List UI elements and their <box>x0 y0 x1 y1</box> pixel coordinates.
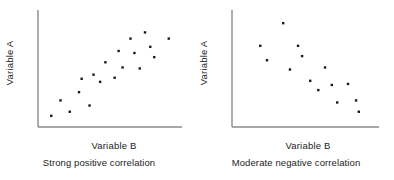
data-point <box>259 45 261 47</box>
data-point <box>113 77 115 79</box>
data-point <box>133 52 135 54</box>
data-point <box>59 99 61 101</box>
chart-panel-moderate-negative: Variable A Variable B Moderate negative … <box>197 0 394 180</box>
data-point <box>309 80 311 82</box>
data-point <box>355 99 357 101</box>
scatterplot-figure: Variable A Variable B Strong positive co… <box>0 0 394 180</box>
data-points-moderate-negative <box>259 22 360 113</box>
data-point <box>331 84 333 86</box>
data-points-strong-positive <box>50 31 170 117</box>
data-point <box>80 78 82 80</box>
data-point <box>139 67 141 69</box>
data-point <box>301 55 303 57</box>
data-point <box>117 50 119 52</box>
data-point <box>144 31 146 33</box>
data-point <box>347 83 349 85</box>
data-point <box>121 66 123 68</box>
data-point <box>153 56 155 58</box>
data-point <box>282 22 284 24</box>
data-point <box>317 89 319 91</box>
data-point <box>69 111 71 113</box>
data-point <box>297 45 299 47</box>
data-point <box>50 115 52 117</box>
caption-left: Strong positive correlation <box>6 157 192 168</box>
scatter-plot-strong-positive <box>0 0 197 180</box>
axes-moderate-negative <box>232 10 379 127</box>
data-point <box>104 61 106 63</box>
data-point <box>289 68 291 70</box>
axes-strong-positive <box>38 10 182 127</box>
scatter-plot-moderate-negative <box>197 0 394 180</box>
data-point <box>88 104 90 106</box>
data-point <box>358 111 360 113</box>
data-point <box>92 73 94 75</box>
x-axis-label-left: Variable B <box>38 140 190 151</box>
data-point <box>129 37 131 39</box>
data-point <box>78 91 80 93</box>
data-point <box>168 37 170 39</box>
data-point <box>266 59 268 61</box>
data-point <box>336 101 338 103</box>
chart-panel-strong-positive: Variable A Variable B Strong positive co… <box>0 0 197 180</box>
data-point <box>99 81 101 83</box>
data-point <box>149 46 151 48</box>
x-axis-label-right: Variable B <box>232 140 384 151</box>
data-point <box>324 66 326 68</box>
caption-right: Moderate negative correlation <box>203 157 389 168</box>
